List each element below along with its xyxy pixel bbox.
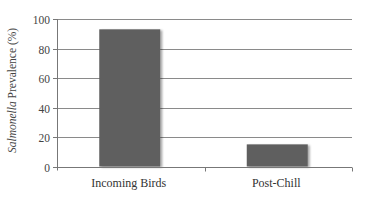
bar-incoming-birds — [99, 29, 160, 166]
y-tick-label: 0 — [44, 162, 50, 174]
y-axis-label: Salmonella Prevalence (%) — [6, 33, 20, 153]
y-tick-label: 60 — [39, 73, 51, 85]
y-axis-label-rest: Prevalence (%) — [6, 28, 18, 101]
y-tick-label: 100 — [33, 14, 51, 26]
chart-canvas: 020406080100Incoming BirdsPost-Chill — [0, 0, 372, 201]
bar-chart: 020406080100Incoming BirdsPost-Chill Sal… — [0, 0, 372, 201]
bar-post-chill — [247, 144, 308, 166]
x-tick-label: Post-Chill — [252, 176, 301, 190]
x-tick-label: Incoming Birds — [91, 176, 166, 190]
y-tick-label: 80 — [39, 44, 51, 56]
y-tick-label: 20 — [39, 132, 51, 144]
y-axis-label-italic: Salmonella — [6, 101, 18, 153]
y-tick-label: 40 — [39, 103, 51, 115]
